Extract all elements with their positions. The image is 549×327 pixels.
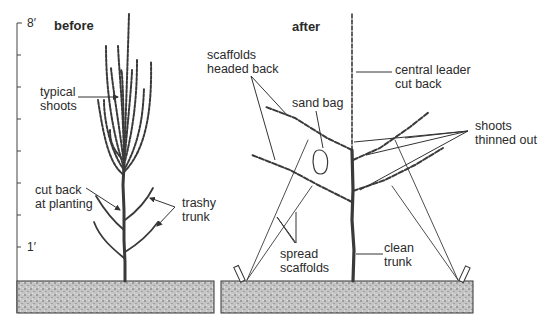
label-shoots-thinned-out: shoots thinned out: [475, 119, 537, 147]
scale-top-label: 8′: [27, 16, 36, 30]
label-clean-trunk: clean trunk: [384, 241, 414, 269]
label-cut-back-at-planting: cut back at planting: [35, 183, 93, 211]
label-typical-shoots: typical shoots: [40, 85, 77, 113]
scale-bottom-label: 1′: [27, 240, 36, 254]
ground-after: [221, 281, 473, 313]
label-sand-bag: sand bag: [292, 96, 343, 110]
label-spread-scaffolds: spread scaffolds: [280, 247, 329, 275]
label-trashy-trunk: trashy trunk: [182, 196, 216, 224]
before-title: before: [54, 19, 94, 33]
label-central-leader-cut-back: central leader cut back: [395, 63, 471, 91]
ground-before: [17, 281, 214, 313]
height-scale: [17, 23, 22, 313]
label-scaffolds-headed-back: scaffolds headed back: [207, 48, 279, 76]
after-title: after: [292, 20, 320, 34]
before-tree: [94, 14, 158, 281]
